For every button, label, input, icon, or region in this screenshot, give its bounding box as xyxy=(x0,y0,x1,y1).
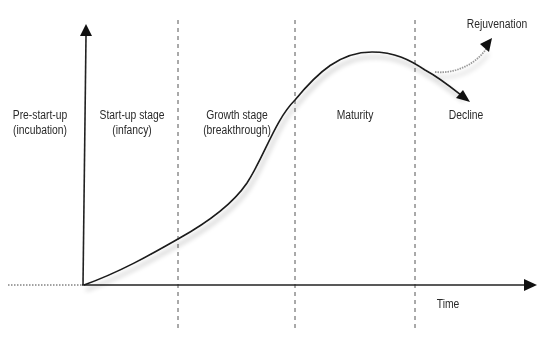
y-axis xyxy=(83,36,86,285)
lifecycle-diagram xyxy=(0,0,542,345)
stage-label-growth: Growth stage (breakthrough) xyxy=(194,108,280,138)
decline-arrow-icon xyxy=(456,90,470,102)
stage-label-line2: (infancy) xyxy=(94,123,170,138)
stage-label-decline: Decline xyxy=(440,108,492,123)
rejuvenation-curve xyxy=(435,48,487,72)
x-axis-label: Time xyxy=(431,297,465,312)
lifecycle-curve xyxy=(84,52,462,285)
stage-label-line1: Start-up stage xyxy=(94,108,170,123)
x-axis-arrow-icon xyxy=(524,279,537,291)
stage-label-line1: Growth stage xyxy=(194,108,280,123)
stage-label-start-up: Start-up stage (infancy) xyxy=(94,108,170,138)
stage-label-line2: (breakthrough) xyxy=(194,123,280,138)
stage-label-pre-start-up: Pre-start-up (incubation) xyxy=(6,108,75,138)
stage-label-line1: Decline xyxy=(440,108,492,123)
stage-label-line1: Pre-start-up xyxy=(6,108,75,123)
stage-label-line2: (incubation) xyxy=(6,123,75,138)
stage-label-maturity: Maturity xyxy=(325,108,385,123)
rejuvenation-label: Rejuvenation xyxy=(458,17,535,32)
stage-label-line1: Maturity xyxy=(325,108,385,123)
y-axis-arrow-icon xyxy=(80,24,92,36)
